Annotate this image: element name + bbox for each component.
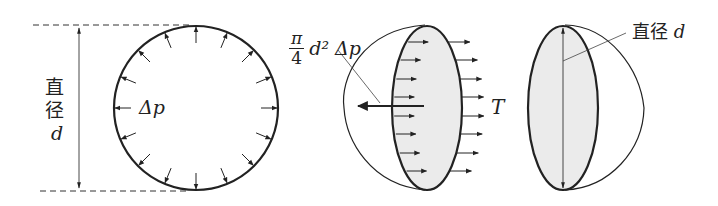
force-fraction-num: π — [289, 30, 304, 49]
diameter-label-char1: 直 — [45, 78, 64, 97]
pressure-arrow — [165, 168, 171, 183]
hemisphere-section — [392, 26, 462, 190]
diameter-label-char2: 径 — [45, 101, 64, 120]
diagram-canvas: 直 径 d Δp π 4 d² Δp T 直径 d — [0, 0, 718, 206]
pressure-arrow — [256, 77, 271, 83]
pressure-arrow — [121, 133, 136, 139]
section-diameter-text: 直径 — [632, 21, 668, 42]
pressure-arrow — [221, 168, 227, 183]
force-fraction-den: 4 — [291, 49, 302, 67]
tension-label: T — [491, 97, 504, 117]
panel-section — [528, 25, 644, 190]
pressure-arrow — [242, 51, 253, 62]
force-label-rest: d² Δp — [309, 37, 361, 59]
pressure-arrow — [165, 33, 171, 48]
section-diameter-label: 直径 d — [632, 23, 685, 41]
pressure-label: Δp — [139, 98, 165, 117]
pressure-arrow — [221, 33, 227, 48]
pressure-arrow — [139, 51, 150, 62]
section-diameter-symbol: d — [674, 21, 686, 42]
force-label: π 4 d² Δp — [289, 30, 361, 67]
diameter-label-symbol: d — [51, 124, 63, 143]
pressure-arrow — [256, 133, 271, 139]
pressure-arrow — [242, 154, 253, 165]
pressure-arrow — [139, 154, 150, 165]
force-fraction: π 4 — [289, 30, 304, 67]
pressure-arrow — [121, 77, 136, 83]
